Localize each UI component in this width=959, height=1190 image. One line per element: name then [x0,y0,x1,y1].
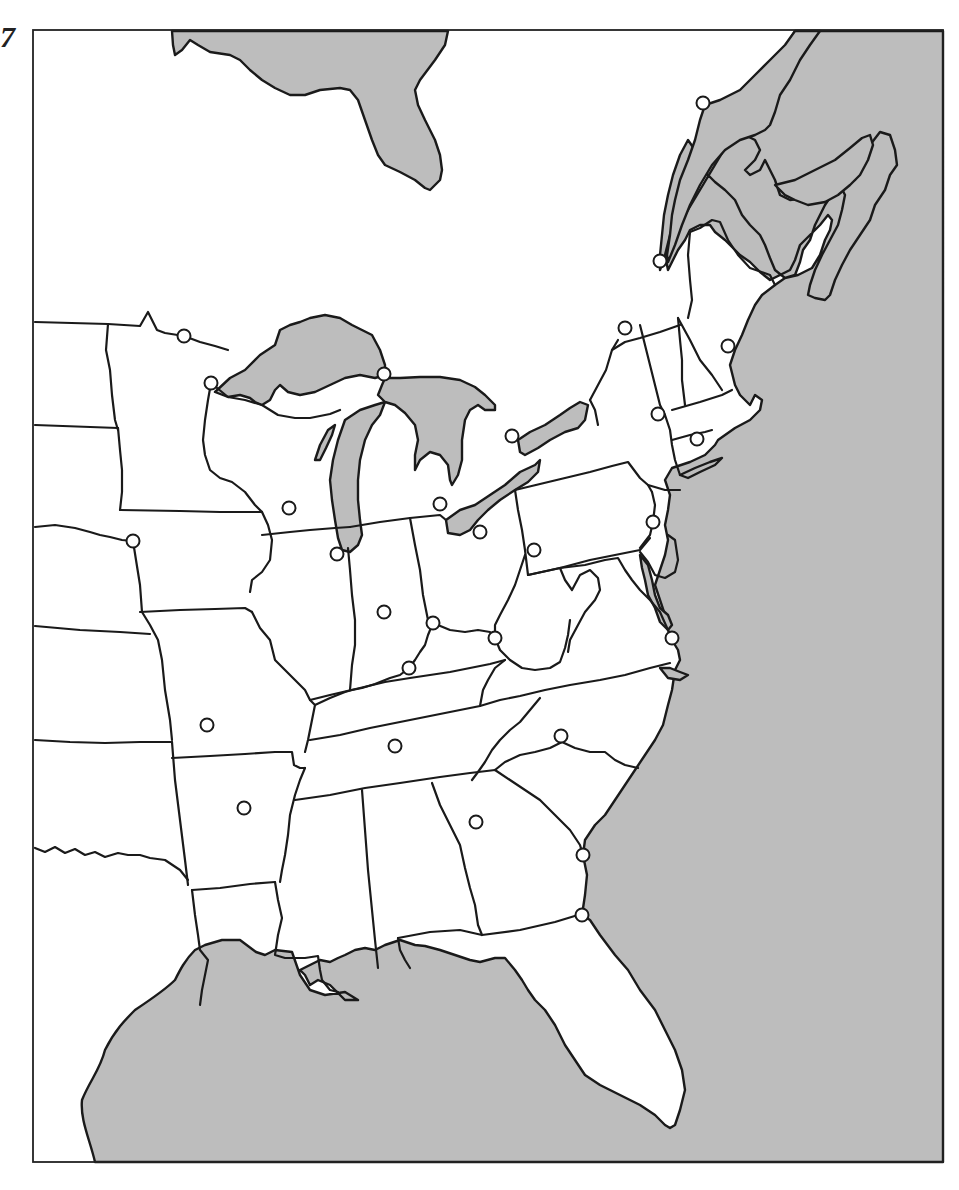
city-marker-icon [666,632,679,645]
border-nd-mn [106,324,118,430]
city-marker-icon [528,544,541,557]
border-ok-ar [172,742,188,885]
lake-ontario [518,402,588,455]
border-ma-north [672,390,732,410]
city-marker-icon [489,632,502,645]
city-marker-icon [722,340,735,353]
outline-map [0,0,959,1190]
city-marker-icon [205,377,218,390]
james-bay [172,31,448,190]
city-marker-icon [434,498,447,511]
city-marker-icon [691,433,704,446]
water-bodies [82,31,943,1162]
city-marker-icon [127,535,140,548]
border-nc-sc [495,742,638,770]
city-marker-icon [403,662,416,675]
city-marker-icon [576,909,589,922]
border-oh-wv [495,555,525,638]
city-marker-icon [378,606,391,619]
border-al-ga [432,783,482,935]
border-mn-ia [120,510,262,512]
border-ne-ks [35,626,150,634]
border-tn-south [295,770,495,800]
city-marker-icon [283,502,296,515]
border-mi-in-oh [350,515,446,527]
border-nh-me [678,318,722,390]
green-bay [315,425,335,460]
border-ontario-quebec-line [590,400,598,425]
border-in-oh [410,518,428,620]
border-ks-ok [35,740,172,743]
city-marker-icon [238,802,251,815]
city-marker-icon [652,408,665,421]
city-marker-icon [427,617,440,630]
border-ga-fl-al [398,915,578,938]
border-nd-sd-north [35,312,228,350]
city-marker-icon [506,430,519,443]
border-nd-sd [35,425,118,428]
border-ga-sc [495,770,583,855]
border-wv-va-ky [495,620,570,670]
border-mississippi-river-mo-il [252,612,315,752]
lake-michigan [330,402,385,552]
border-maine-nb [688,232,692,318]
border-tn-nc [472,698,540,780]
city-marker-icon [470,816,483,829]
border-ny-vt [640,325,665,415]
city-marker-icon [378,368,391,381]
border-ms-al [362,790,378,968]
border-mo-ar [172,752,305,768]
city-marker-icon [647,516,660,529]
city-marker-icon [697,97,710,110]
lake-huron [378,377,495,485]
border-ia-mo [140,608,252,612]
city-marker-icon [331,548,344,561]
border-ok-tx [35,847,188,880]
border-ne-ia-mo [133,541,172,740]
border-sd-mn-ia [118,428,122,510]
border-ar-la [192,882,275,890]
city-marker-icon [619,322,632,335]
lake-superior [215,315,385,405]
city-marker-icon [201,719,214,732]
border-sd-ne [35,525,133,541]
city-marker-icon [577,849,590,862]
border-ky-ohio [433,623,495,638]
border-ia-il [250,512,272,592]
city-marker-icon [389,740,402,753]
border-il-in [348,548,355,690]
border-mississippi-ar-ms-tn [280,768,305,882]
city-marker-icon [555,730,568,743]
city-marker-icon [654,255,667,268]
city-marker-icon [178,330,191,343]
border-ny-ma-ct [665,415,680,475]
border-ny-ontario [590,340,618,400]
city-marker-icon [474,526,487,539]
